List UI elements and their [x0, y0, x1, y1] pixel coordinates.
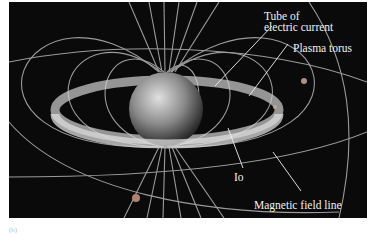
- jupiter-planet: [129, 72, 203, 146]
- label-magnetic-field-line: Magnetic field line: [254, 199, 342, 211]
- label-plasma-torus: Plasma torus: [293, 42, 352, 54]
- moon-3: [273, 105, 277, 109]
- panel-label: (b): [9, 226, 17, 234]
- magnetosphere-illustration: Tube of electric current Plasma torus Io…: [9, 2, 367, 218]
- moon-2: [301, 78, 307, 84]
- moon-1: [132, 194, 140, 202]
- illustration-svg: [9, 2, 367, 218]
- label-io: Io: [234, 171, 244, 183]
- label-tube-line2: electric current: [264, 21, 333, 33]
